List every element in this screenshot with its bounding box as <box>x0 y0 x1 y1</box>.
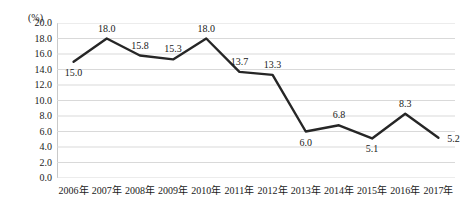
y-axis-tick-label: 12.0 <box>24 80 52 90</box>
point-value-label: 13.3 <box>264 60 282 70</box>
point-value-label: 15.0 <box>65 68 83 78</box>
x-axis-tick-label: 2016年 <box>390 185 420 197</box>
point-value-label: 18.0 <box>98 24 116 34</box>
x-axis-tick-label: 2011年 <box>225 185 255 197</box>
point-value-label: 13.7 <box>231 57 249 67</box>
y-axis-tick-label: 20.0 <box>24 18 52 28</box>
x-axis-tick-label: 2013年 <box>291 185 321 197</box>
x-axis-tick-labels: 2006年2007年2008年2009年2010年2011年2012年2013年… <box>0 185 464 201</box>
y-axis-tick-label: 0.0 <box>24 173 52 183</box>
point-value-label: 15.8 <box>131 41 149 51</box>
y-axis-tick-labels: 20.018.016.014.012.010.08.06.04.02.00.0 <box>24 0 52 206</box>
y-axis-tick-label: 14.0 <box>24 65 52 75</box>
point-value-label: 6.0 <box>300 138 313 148</box>
y-axis-tick-label: 4.0 <box>24 142 52 152</box>
x-axis-tick-label: 2014年 <box>324 185 354 197</box>
point-value-label: 5.2 <box>447 134 460 144</box>
x-axis-tick-label: 2015年 <box>357 185 387 197</box>
point-value-label: 6.8 <box>333 110 346 120</box>
gridlines <box>57 23 455 178</box>
series-line <box>74 39 439 139</box>
x-axis-tick-label: 2006年 <box>59 185 89 197</box>
y-axis-tick-label: 2.0 <box>24 158 52 168</box>
x-axis-tick-label: 2010年 <box>191 185 221 197</box>
point-value-label: 5.1 <box>366 144 379 154</box>
x-axis-tick-label: 2012年 <box>258 185 288 197</box>
line-chart: (%) 20.018.016.014.012.010.08.06.04.02.0… <box>0 0 464 206</box>
x-axis-tick-label: 2009年 <box>158 185 188 197</box>
plot-area <box>57 23 455 178</box>
y-axis-tick-label: 8.0 <box>24 111 52 121</box>
y-axis-tick-label: 18.0 <box>24 34 52 44</box>
x-axis-tick-label: 2008年 <box>125 185 155 197</box>
y-axis-tick-label: 16.0 <box>24 49 52 59</box>
point-value-label: 8.3 <box>399 99 412 109</box>
x-axis-tick-label: 2017年 <box>423 185 453 197</box>
y-axis-tick-label: 6.0 <box>24 127 52 137</box>
point-value-label: 15.3 <box>164 44 182 54</box>
point-value-label: 18.0 <box>198 24 216 34</box>
plot-svg <box>57 23 455 178</box>
y-axis-tick-label: 10.0 <box>24 96 52 106</box>
x-axis-tick-label: 2007年 <box>92 185 122 197</box>
